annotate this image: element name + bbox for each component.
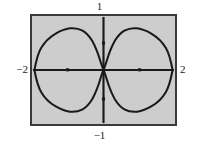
x-tick-positive-one [138,68,141,71]
y-tick-lower [102,97,105,100]
y-max-label: 1 [0,1,199,12]
plot-frame [30,14,177,126]
x-min-label: −2 [4,64,28,75]
y-min-label: −1 [0,130,199,141]
plot-canvas [32,16,175,124]
x-tick-negative-one [66,68,69,71]
x-max-label: 2 [180,64,198,75]
y-tick-upper [102,42,105,45]
graph-figure: 1 −1 −2 2 [0,0,199,145]
